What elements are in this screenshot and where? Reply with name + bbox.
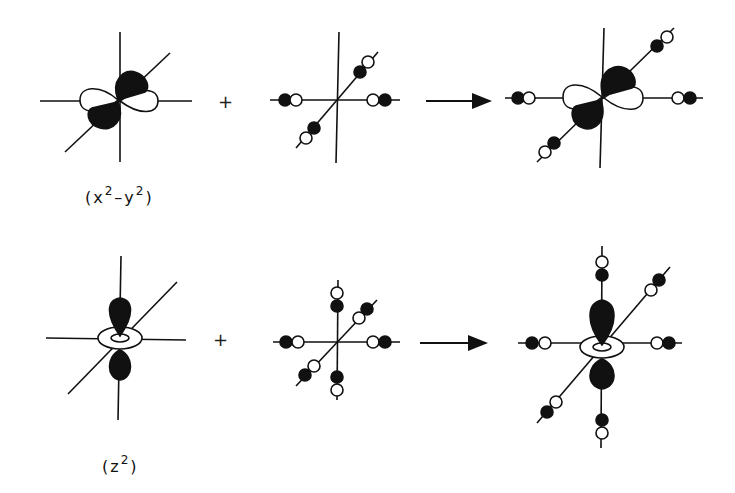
- label-text: ): [145, 188, 153, 207]
- label-text: (z: [102, 457, 121, 476]
- label-text: ): [130, 457, 138, 476]
- label-superscript: 2: [105, 184, 115, 198]
- plus-sign: +: [213, 329, 228, 350]
- label-text: (x: [85, 188, 105, 207]
- label-superscript: 2: [121, 453, 131, 467]
- dx2y2-orbital: [40, 32, 192, 162]
- orbital-diagram: +: [0, 0, 735, 493]
- orbital-label-dx2y2: (x2–y2): [85, 186, 154, 207]
- label-superscript: 2: [136, 184, 146, 198]
- ligand-set-6: [273, 280, 400, 400]
- plus-sign: +: [218, 91, 233, 112]
- dz2-bonding-mo: [518, 246, 682, 448]
- orbital-label-dz2: (z2): [102, 455, 139, 476]
- dz2-orbital: [46, 256, 186, 420]
- ligand-set-4: [270, 32, 400, 163]
- label-text: –y: [114, 188, 135, 207]
- dx2y2-bonding-mo: [505, 28, 703, 168]
